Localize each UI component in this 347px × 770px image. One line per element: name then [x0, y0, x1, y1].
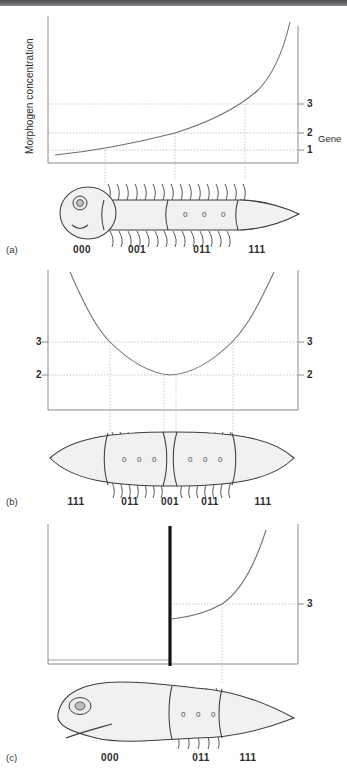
panel-a-tick-2: 2	[307, 127, 313, 138]
panel-a-threshold-guides	[48, 104, 298, 150]
panel-b-segment-label-011-right: 011	[192, 496, 228, 507]
panel-b-left-tick-3: 3	[36, 336, 42, 347]
panel-a-zero-3: 0	[221, 210, 226, 219]
panel-c-graphic: 0 0 0	[0, 516, 347, 768]
panel-a-tick-1: 1	[307, 144, 313, 155]
panel-b-zero-left-2: 0	[137, 455, 142, 464]
panel-c-segment-label-011: 011	[181, 752, 221, 763]
panel-c: 0 0 0 3 (c) 000 011 111	[0, 516, 347, 768]
panel-a-tail	[240, 200, 299, 230]
panel-c-label: (c)	[6, 752, 17, 763]
panel-b-droplines	[110, 342, 233, 432]
panel-b-organism: 0 0 0 0 0 0	[50, 432, 294, 498]
panel-b-body	[50, 432, 294, 486]
panel-b: 0 0 0 0 0 0 3 2 3 2 (b) 111 011 001 011 …	[0, 262, 347, 512]
panel-c-segment-label-000: 000	[90, 752, 130, 763]
panel-c-right-tick-3: 3	[307, 598, 313, 609]
panel-c-zero-3: 0	[211, 710, 216, 719]
panel-a-dorsal-bristles	[108, 184, 245, 200]
panel-b-segment-label-111-right: 111	[245, 496, 281, 507]
panel-a-organism: 0 0 0	[60, 184, 299, 247]
panel-b-graphic: 0 0 0 0 0 0	[0, 262, 347, 512]
panel-a-graphic: 0 0 0	[0, 8, 347, 258]
panel-a-zero-1: 0	[183, 210, 188, 219]
panel-b-segment-label-011-left: 011	[112, 496, 148, 507]
panel-b-threshold-guides	[48, 342, 298, 375]
panel-b-zero-left-1: 0	[122, 455, 127, 464]
panel-a-segment-label-000: 000	[62, 244, 102, 255]
panel-b-zero-left-3: 0	[152, 455, 157, 464]
panel-a: Morphogen concentration	[0, 8, 347, 258]
panel-b-zero-right-2: 0	[203, 455, 208, 464]
panel-a-tick-3: 3	[307, 98, 313, 109]
panel-b-gradient-curve	[70, 272, 274, 375]
panel-b-label: (b)	[6, 496, 18, 507]
panel-b-zero-right-3: 0	[218, 455, 223, 464]
panel-c-zero-2: 0	[196, 710, 201, 719]
panel-a-segment-label-011: 011	[182, 244, 222, 255]
panel-b-right-tick-2: 2	[307, 369, 313, 380]
panel-c-organism: 0 0 0	[58, 682, 294, 749]
panel-a-axes	[48, 16, 298, 163]
top-divider-bar	[0, 0, 347, 6]
panel-a-segment-label-111: 111	[237, 244, 277, 255]
panel-a-zero-2: 0	[202, 210, 207, 219]
panel-a-label: (a)	[6, 244, 18, 255]
panel-c-eye-inner	[75, 702, 85, 710]
panel-b-axes	[48, 270, 298, 410]
panel-a-gene-legend: Gene	[318, 133, 341, 144]
panel-b-zero-right-1: 0	[188, 455, 193, 464]
panel-b-axis-ticks	[42, 342, 304, 375]
panel-b-right-tick-3: 3	[307, 336, 313, 347]
panel-c-zero-1: 0	[181, 710, 186, 719]
panel-c-segment-label-111: 111	[228, 752, 268, 763]
panel-b-segment-label-111-left: 111	[58, 496, 94, 507]
panel-a-right-ticks	[298, 104, 304, 150]
panel-c-body	[58, 682, 294, 741]
panel-b-left-tick-2: 2	[36, 369, 42, 380]
panel-a-segment-label-001: 001	[117, 244, 157, 255]
panel-a-head	[60, 187, 116, 239]
panel-a-eye-inner	[77, 200, 84, 207]
panel-a-gradient-curve	[55, 22, 290, 155]
panel-b-segment-label-001: 001	[152, 496, 188, 507]
panel-c-gradient-curve	[172, 530, 266, 619]
